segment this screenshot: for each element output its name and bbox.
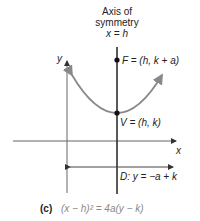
x-axis-label: x	[176, 145, 181, 156]
directrix-label: D: y = −a + k	[120, 171, 177, 182]
caption-equation: (x − h)² = 4a(y − k)	[61, 203, 144, 214]
focus-point	[114, 57, 119, 62]
focus-label: F = (h, k + a)	[122, 55, 179, 66]
parabola-diagram	[0, 0, 200, 221]
vertex-label: V = (h, k)	[120, 117, 161, 128]
vertex-point	[114, 110, 119, 115]
caption-tag: (c)	[40, 203, 52, 214]
y-axis-label: y	[57, 53, 62, 64]
figure-caption: (c) (x − h)² = 4a(y − k)	[40, 203, 144, 214]
